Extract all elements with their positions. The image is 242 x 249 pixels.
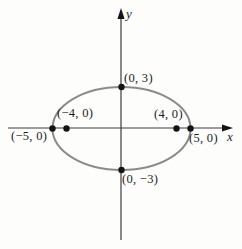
point-focus-left [63,125,69,131]
graph-canvas [0,0,242,249]
y-axis-label: y [126,7,132,21]
point-vertex-left [49,125,55,131]
label-focus-right: (4, 0) [154,107,183,121]
label-co-vertex-bottom: (0, −3) [122,172,158,186]
x-axis-label: x [227,130,233,144]
label-co-vertex-top: (0, 3) [124,71,153,85]
label-focus-left: (−4, 0) [57,106,93,120]
label-vertex-left: (−5, 0) [11,129,47,143]
point-focus-right [173,125,179,131]
y-axis-arrowhead-icon [117,8,124,19]
label-vertex-right: (5, 0) [189,131,218,145]
ellipse-figure: (0, 3) (−4, 0) (4, 0) (−5, 0) (5, 0) (0,… [0,0,242,249]
